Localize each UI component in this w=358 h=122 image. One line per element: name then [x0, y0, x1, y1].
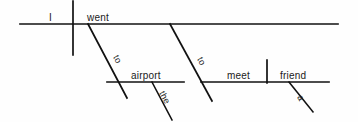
word-label-prep-object-1: airport: [131, 70, 161, 81]
sentence-diagram-canvas: I went to airport the to meet friend a: [0, 0, 358, 122]
sentence-diagram-svg: I went to airport the to meet friend a: [0, 0, 358, 122]
word-label-verb: went: [86, 12, 109, 23]
word-label-prep-object-2: meet: [227, 70, 250, 81]
diagram-background: [0, 0, 358, 122]
word-label-subject: I: [49, 12, 52, 23]
word-label-direct-object: friend: [280, 70, 306, 81]
